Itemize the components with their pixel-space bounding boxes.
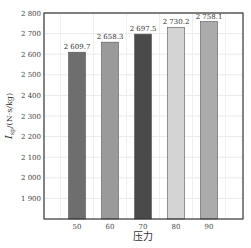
y-axis-title: Isp/(N·s/kg) xyxy=(3,93,16,140)
x-axis-title: 压力 xyxy=(133,230,153,242)
y-tick-label: 2 400 xyxy=(21,92,41,100)
value-label: 2 658.3 xyxy=(97,33,124,41)
bar-60 xyxy=(102,42,119,219)
value-label: 2 697.5 xyxy=(130,25,157,33)
y-tick-label: 1 900 xyxy=(21,195,41,203)
bar-50 xyxy=(69,52,86,219)
value-label: 2 758.1 xyxy=(196,13,223,21)
bar-90 xyxy=(201,22,218,219)
y-tick-label: 2 800 xyxy=(21,10,41,18)
bar-chart: 1 9002 0002 1002 2002 3002 4002 5002 600… xyxy=(0,0,251,248)
x-tick-label: 60 xyxy=(106,223,115,231)
y-tick-label: 2 500 xyxy=(21,71,41,79)
bar-70 xyxy=(135,34,152,219)
x-tick-label: 50 xyxy=(73,223,82,231)
bar-80 xyxy=(168,27,185,219)
y-tick-label: 2 700 xyxy=(21,30,41,38)
y-tick-label: 2 600 xyxy=(21,51,41,59)
x-tick-label: 80 xyxy=(172,223,181,231)
x-tick-label: 70 xyxy=(139,223,148,231)
bars xyxy=(69,22,218,219)
y-tick-label: 2 200 xyxy=(21,133,41,141)
y-axis-ticks: 1 9002 0002 1002 2002 3002 4002 5002 600… xyxy=(21,10,41,203)
x-tick-label: 90 xyxy=(205,223,214,231)
x-axis-ticks: 5060708090 xyxy=(73,223,214,231)
y-tick-label: 2 300 xyxy=(21,113,41,121)
value-label: 2 730.2 xyxy=(163,18,190,26)
y-tick-label: 2 100 xyxy=(21,154,41,162)
value-label: 2 609.7 xyxy=(64,43,91,51)
y-tick-label: 2 000 xyxy=(21,174,41,182)
